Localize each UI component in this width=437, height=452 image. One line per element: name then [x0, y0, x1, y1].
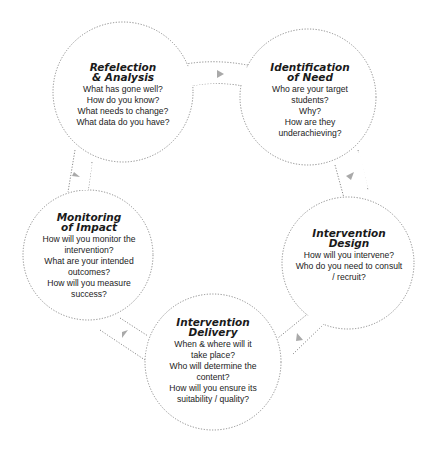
- title-line: of Need: [250, 72, 370, 82]
- title-line: & Analysis: [63, 72, 183, 82]
- question: Who will determine the: [153, 361, 273, 372]
- question: suitability / quality?: [153, 394, 273, 405]
- stage-delivery: Intervention Delivery When & where will …: [153, 317, 273, 405]
- question: outcomes?: [30, 267, 148, 278]
- stage-title: Intervention Design: [287, 228, 411, 248]
- stage-title: Monitoring of Impact: [30, 212, 148, 232]
- stage-identification: Identification of Need Who are your targ…: [250, 62, 370, 139]
- question: How will you monitor the: [30, 234, 148, 245]
- question: How do you know?: [63, 95, 183, 106]
- question: content?: [153, 372, 273, 383]
- question: Why?: [250, 106, 370, 117]
- question: intervention?: [30, 245, 148, 256]
- stage-monitoring: Monitoring of Impact How will you monito…: [30, 212, 148, 300]
- stage-design: Intervention Design How will you interve…: [287, 228, 411, 283]
- question: Who are your target: [250, 84, 370, 95]
- question: How will you intervene?: [287, 250, 411, 261]
- question: What are your intended: [30, 256, 148, 267]
- question: Who do you need to consult: [287, 261, 411, 272]
- title-line: Design: [287, 238, 411, 248]
- question: What needs to change?: [63, 106, 183, 117]
- stage-reflection: Refelection & Analysis What has gone wel…: [63, 62, 183, 128]
- question: What has gone well?: [63, 84, 183, 95]
- title-line: Delivery: [153, 327, 273, 337]
- question: When & where will it: [153, 339, 273, 350]
- question: success?: [30, 289, 148, 300]
- stage-title: Refelection & Analysis: [63, 62, 183, 82]
- stage-title: Intervention Delivery: [153, 317, 273, 337]
- question: / recruit?: [287, 272, 411, 283]
- title-line: of Impact: [30, 222, 148, 232]
- question: How will you ensure its: [153, 383, 273, 394]
- question: take place?: [153, 350, 273, 361]
- question: What data do you have?: [63, 117, 183, 128]
- question: How are they: [250, 117, 370, 128]
- question: students?: [250, 95, 370, 106]
- question: How will you measure: [30, 278, 148, 289]
- question: underachieving?: [250, 128, 370, 139]
- stage-title: Identification of Need: [250, 62, 370, 82]
